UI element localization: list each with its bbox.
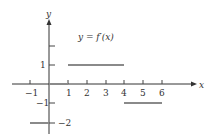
x-tick-label: 6: [159, 88, 165, 98]
x-tick-label: 3: [103, 88, 109, 98]
chart-title: y = f′(x): [77, 32, 114, 42]
x-tick-label: 1: [66, 88, 72, 98]
y-tick-label: 1: [40, 60, 46, 70]
y-axis-arrow-icon: [47, 19, 52, 25]
y-axis-label: y: [45, 9, 52, 19]
y-tick-label: −2: [58, 118, 71, 128]
x-tick-label: 5: [140, 88, 146, 98]
x-axis-label: x: [199, 80, 204, 90]
chart: y x y = f′(x) −1 1 2 3 4 5 6 1 −1 −2: [0, 0, 217, 140]
x-tick-label: 2: [84, 88, 90, 98]
y-tick-label: −1: [36, 98, 49, 108]
x-tick-label: 4: [121, 88, 127, 98]
x-axis-arrow-icon: [191, 82, 197, 87]
x-tick-label: −1: [25, 88, 38, 98]
